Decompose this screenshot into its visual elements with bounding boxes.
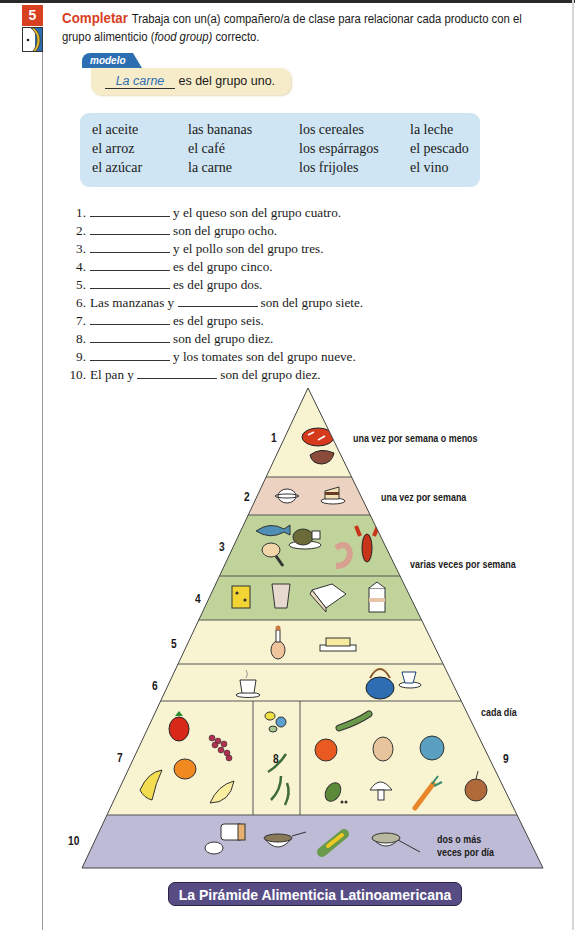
orange-icon	[174, 759, 196, 779]
cabbage-icon	[420, 736, 444, 760]
group-number-5: 5	[171, 637, 177, 651]
tomato-icon	[315, 739, 337, 761]
group-number-2: 2	[244, 490, 250, 504]
band-5	[0, 620, 575, 664]
frequency-label-group3-4: varias veces por semana	[410, 558, 516, 570]
group-number-4: 4	[195, 592, 201, 606]
frequency-label-daily: cada día	[481, 706, 517, 718]
group-number-9: 9	[503, 752, 509, 766]
frequency-label-group10-line2: veces por día	[437, 846, 494, 858]
food-pyramid	[0, 0, 575, 930]
potato-icon	[373, 737, 393, 761]
cheese-icon	[232, 586, 250, 608]
group-number-10: 10	[68, 834, 79, 848]
group-number-1: 1	[271, 431, 277, 445]
frequency-label-group10-line1: dos o más	[437, 833, 481, 845]
frequency-label-group2: una vez por semana	[381, 491, 466, 503]
group-number-7: 7	[117, 751, 123, 765]
yogurt-cup-icon	[272, 584, 290, 608]
frequency-label-group1: una vez por semana o menos	[353, 432, 477, 444]
group-number-8: 8	[273, 752, 279, 766]
group-number-3: 3	[219, 540, 225, 554]
milk-carton-icon	[369, 582, 385, 612]
pyramid-title: La Pirámide Alimenticia Latinoamericana	[168, 882, 462, 906]
band-6	[0, 664, 575, 701]
group-number-6: 6	[152, 679, 158, 693]
